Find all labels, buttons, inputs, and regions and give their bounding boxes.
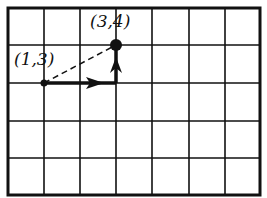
coordinate-grid bbox=[0, 0, 267, 198]
label-point-1-3: (1,3) bbox=[14, 51, 54, 68]
label-point-3-4: (3,4) bbox=[90, 13, 130, 30]
grid-border bbox=[8, 8, 260, 195]
point-1-3 bbox=[41, 80, 48, 87]
grid-lines bbox=[8, 8, 260, 195]
point-3-4 bbox=[110, 39, 122, 51]
